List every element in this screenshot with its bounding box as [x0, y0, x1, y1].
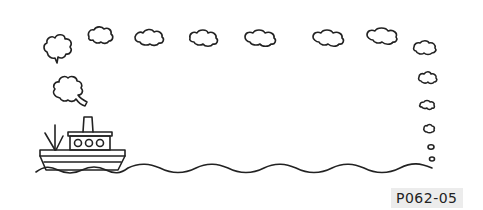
cloud-icon: [245, 30, 275, 46]
funnel: [83, 117, 93, 132]
porthole-icon: [86, 140, 93, 147]
cloud-row-top: [44, 27, 436, 63]
porthole-icon: [75, 140, 82, 147]
cloud-icon: [420, 101, 435, 110]
porthole-icon: [97, 140, 104, 147]
cloud-icon: [414, 41, 436, 55]
cloud-icon: [367, 28, 397, 44]
bubble-icon: [428, 145, 434, 149]
cloud-icon: [135, 29, 163, 45]
cloud-icon: [313, 30, 343, 46]
image-code-label: P062-05: [391, 188, 463, 208]
bubble-icon: [430, 157, 435, 161]
cloud-icon: [88, 27, 112, 44]
smoke-icon: [54, 77, 87, 106]
cloud-icon: [424, 125, 435, 133]
steamship: [40, 77, 125, 170]
wave-line: [36, 164, 432, 173]
clipart-frame: [0, 0, 483, 210]
cloud-icon: [419, 72, 437, 84]
cloud-icon: [190, 30, 218, 46]
deck: [40, 150, 125, 156]
mast-rope: [45, 133, 55, 150]
cloud-column-right: [419, 72, 437, 161]
mast-rope: [56, 136, 63, 150]
cloud-icon: [44, 35, 71, 63]
